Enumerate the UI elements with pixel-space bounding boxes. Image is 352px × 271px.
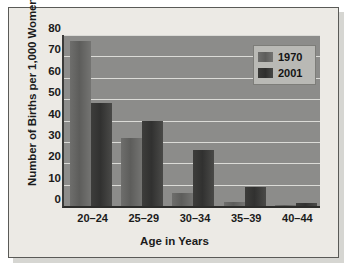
y-axis-tick-labels: 80706050403020100 (31, 29, 61, 201)
bar-group-25-29 (121, 35, 166, 206)
y-tick-label: 50 (31, 87, 61, 99)
figure-root: Number of Births per 1,000 Women 8070605… (0, 0, 352, 271)
y-tick-label: 60 (31, 66, 61, 78)
bar-1970-30-34[interactable] (172, 193, 193, 206)
y-tick-label: 30 (31, 130, 61, 142)
bar-1970-25-29[interactable] (121, 138, 142, 206)
y-tick-label: 40 (31, 109, 61, 121)
x-tick-label: 30–34 (169, 213, 221, 224)
y-tick-label: 0 (31, 194, 61, 206)
x-tick-label: 40–44 (271, 213, 323, 224)
bar-2001-30-34[interactable] (193, 150, 214, 206)
bar-2001-40-44[interactable] (296, 203, 317, 206)
bar-1970-20-24[interactable] (70, 41, 91, 206)
y-tick-label: 80 (31, 23, 61, 35)
y-tick-label: 20 (31, 152, 61, 164)
x-tick-label: 35–39 (220, 213, 272, 224)
bar-group-30-34 (172, 35, 217, 206)
y-tick-label: 10 (31, 173, 61, 185)
legend-item-1970[interactable]: 1970 (258, 49, 311, 65)
x-axis-tick-labels: 20–2425–2930–3435–3940–44 (64, 213, 322, 229)
bar-1970-35-39[interactable] (224, 202, 245, 206)
chart-legend: 19702001 (253, 45, 316, 85)
figure-card: Number of Births per 1,000 Women 8070605… (8, 7, 339, 258)
bar-2001-25-29[interactable] (142, 121, 163, 207)
x-tick-label: 20–24 (67, 213, 119, 224)
legend-item-2001[interactable]: 2001 (258, 65, 311, 81)
legend-label: 2001 (278, 68, 302, 79)
bar-1970-40-44[interactable] (275, 205, 296, 206)
legend-swatch-icon (258, 68, 273, 78)
legend-label: 1970 (278, 52, 302, 63)
x-axis-title: Age in Years (9, 235, 340, 247)
legend-swatch-icon (258, 52, 273, 62)
bar-2001-35-39[interactable] (245, 187, 266, 206)
x-tick-label: 25–29 (118, 213, 170, 224)
bar-group-20-24 (70, 35, 115, 206)
y-tick-label: 70 (31, 45, 61, 57)
bar-2001-20-24[interactable] (91, 103, 112, 206)
